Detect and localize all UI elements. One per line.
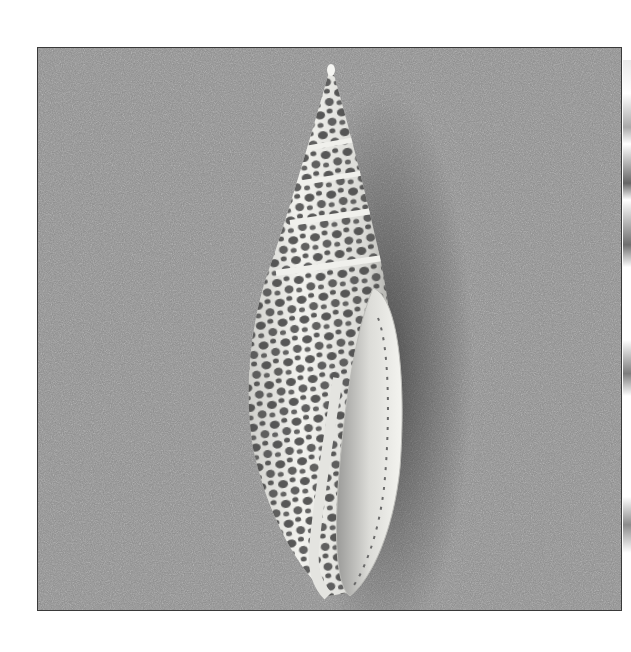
shell-illustration	[38, 48, 622, 611]
adjacent-photo-edge	[623, 60, 631, 620]
shell-photograph	[37, 47, 622, 611]
